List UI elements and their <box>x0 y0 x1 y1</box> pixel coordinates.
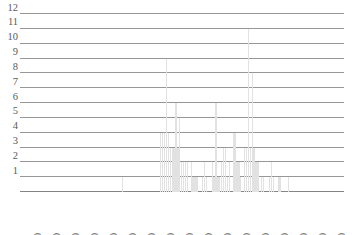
y-tick-label-2: 2 <box>13 151 18 162</box>
x-tick-label-1640: 1640 <box>224 233 234 235</box>
x-tick-label-1680: 1680 <box>300 233 310 235</box>
x-tick-label-1550: 1550 <box>53 233 63 235</box>
y-tick-label-6: 6 <box>13 92 18 103</box>
x-tick-label-1630: 1630 <box>205 233 215 235</box>
bar-1676 <box>288 177 289 192</box>
x-tick-label-1610: 1610 <box>167 233 177 235</box>
bar-chart: 123456789101112 154015501560157015801590… <box>0 0 352 235</box>
y-tick-label-1: 1 <box>13 166 18 177</box>
y-tick-label-8: 8 <box>13 62 18 73</box>
y-tick-label-9: 9 <box>13 47 18 58</box>
plot-area <box>20 14 344 192</box>
bar-1663 <box>263 177 264 192</box>
x-tick-label-1620: 1620 <box>186 233 196 235</box>
x-tick-label-1650: 1650 <box>243 233 253 235</box>
bar-1672 <box>280 177 281 192</box>
x-axis-labels: 1540155015601570158015901600161016201630… <box>20 194 344 235</box>
bar-1660 <box>257 162 258 192</box>
bars-layer <box>20 14 344 192</box>
bar-1628 <box>196 177 197 192</box>
x-tick-label-1560: 1560 <box>72 233 82 235</box>
bar-1623 <box>187 162 188 192</box>
bar-1589 <box>122 177 123 192</box>
y-tick-label-7: 7 <box>13 77 18 88</box>
y-tick-label-10: 10 <box>8 32 19 43</box>
x-tick-label-1540: 1540 <box>34 233 44 235</box>
y-tick-label-5: 5 <box>13 106 18 117</box>
x-tick-label-1580: 1580 <box>110 233 120 235</box>
bar-1668 <box>273 177 274 192</box>
x-tick-label-1700: 1700 <box>338 233 348 235</box>
y-tick-label-11: 11 <box>8 17 18 28</box>
x-tick-label-1590: 1590 <box>129 233 139 235</box>
x-tick-label-1690: 1690 <box>319 233 329 235</box>
x-tick-label-1660: 1660 <box>262 233 272 235</box>
x-tick-label-1670: 1670 <box>281 233 291 235</box>
bar-1633 <box>206 177 207 192</box>
bar-1651 <box>240 177 241 192</box>
bar-1645 <box>229 162 230 192</box>
x-tick-label-1600: 1600 <box>148 233 158 235</box>
y-tick-label-3: 3 <box>13 136 18 147</box>
x-tick-label-1570: 1570 <box>91 233 101 235</box>
y-axis-labels: 123456789101112 <box>0 14 20 192</box>
y-tick-label-4: 4 <box>13 121 18 132</box>
y-tick-label-12: 12 <box>8 3 19 14</box>
